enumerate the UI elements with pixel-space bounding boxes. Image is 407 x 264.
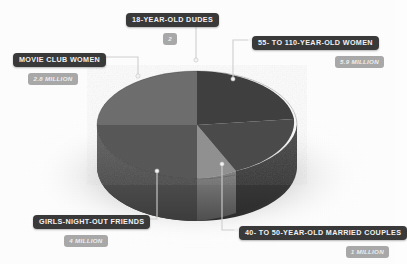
callout-label-18-year-old-dudes: 18-YEAR-OLD DUDES <box>126 13 219 27</box>
callout-label-movie-club-women: MOVIE CLUB WOMEN <box>13 53 106 67</box>
callout-value-girls-night-out-friends: 4 MILLION <box>64 235 107 247</box>
callout-label-girls-night-out-friends: GIRLS-NIGHT-OUT FRIENDS <box>33 215 150 229</box>
slice-movie-club-women[interactable] <box>97 71 197 125</box>
callout-movie-club-women[interactable]: MOVIE CLUB WOMEN 2.8 MILLION <box>13 48 105 85</box>
callout-value-movie-club-women: 2.8 MILLION <box>28 73 77 85</box>
callout-value-women-55-110: 5.9 MILLION <box>335 56 384 68</box>
callout-label-married-couples: 40- TO 50-YEAR-OLD MARRIED COUPLES <box>239 226 407 240</box>
callout-label-women-55-110: 55- TO 110-YEAR-OLD WOMEN <box>252 36 379 50</box>
callout-girls-night-out-friends[interactable]: GIRLS-NIGHT-OUT FRIENDS 4 MILLION <box>33 210 145 247</box>
slice-18-year-old-dudes[interactable] <box>197 71 294 125</box>
callout-value-married-couples: 1 MILLION <box>346 246 389 258</box>
callout-18-year-old-dudes[interactable]: 18-YEAR-OLD DUDES 2 <box>126 8 268 45</box>
callout-women-55-110[interactable]: 55- TO 110-YEAR-OLD WOMEN 5.9 MILLION <box>252 31 395 68</box>
callout-married-couples[interactable]: 40- TO 50-YEAR-OLD MARRIED COUPLES 1 MIL… <box>239 221 395 258</box>
callout-value-18-year-old-dudes: 2 <box>163 33 177 45</box>
